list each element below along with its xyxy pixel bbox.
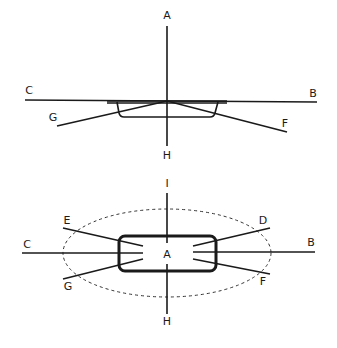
- label-c: C: [25, 84, 33, 97]
- top-figure: A H C B G F: [25, 9, 317, 162]
- label-a: A: [163, 9, 171, 22]
- label-b: B: [307, 236, 315, 249]
- axis-diagram: A H C B G F I H C B E G: [0, 0, 337, 348]
- diagram-canvas: A H C B G F I H C B E G: [0, 0, 337, 348]
- label-c: C: [23, 238, 31, 251]
- label-a-center: A: [163, 248, 171, 261]
- label-i: I: [165, 177, 168, 190]
- line-g: [57, 101, 167, 126]
- label-f: F: [282, 117, 288, 130]
- bottom-figure: I H C B E G D F A: [22, 177, 315, 328]
- label-g: G: [49, 111, 58, 124]
- label-b: B: [309, 87, 317, 100]
- label-e: E: [64, 214, 71, 227]
- label-h: H: [163, 315, 171, 328]
- line-g: [63, 259, 143, 279]
- label-d: D: [259, 214, 267, 227]
- label-f: F: [260, 275, 266, 288]
- label-g: G: [64, 280, 73, 293]
- label-h: H: [163, 149, 171, 162]
